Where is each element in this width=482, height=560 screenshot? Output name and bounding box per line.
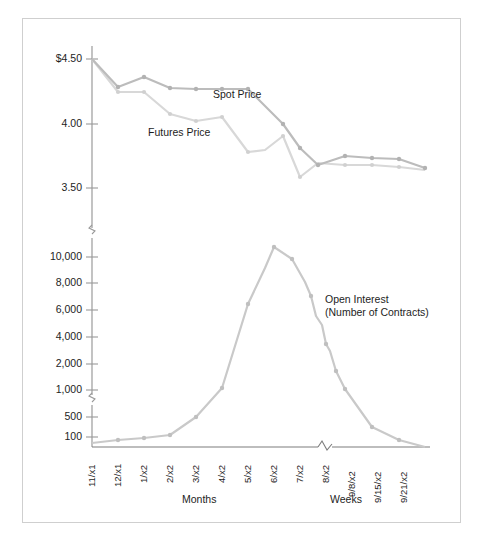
oi-ytick-label-4: 2,000	[20, 358, 82, 369]
price-y-axis	[86, 46, 98, 248]
oi-ytick-label-3: 4,000	[20, 331, 82, 342]
chart-root: $4.50 4.00 3.50 10,000 8,000 6,000 4,000…	[0, 0, 482, 560]
open-interest-series	[92, 245, 425, 447]
x-tick-label-12: 9/21/x2	[399, 472, 409, 503]
oi-ytick-label-5: 1,000	[20, 384, 82, 395]
x-tick-label-0: 11/x1	[87, 464, 97, 487]
x-tick-label-5: 4/x2	[217, 465, 227, 483]
spot-price-series	[92, 59, 427, 170]
futures-price-annotation: Futures Price	[148, 126, 210, 139]
x-tick-label-11: 9/15/x2	[373, 472, 383, 503]
price-ytick-label-0: $4.50	[28, 53, 82, 64]
spot-price-annotation: Spot Price	[213, 88, 261, 101]
x-tick-label-9: 8/x2	[321, 465, 331, 483]
price-ytick-label-1: 4.00	[28, 118, 82, 129]
x-tick-label-4: 3/x2	[191, 465, 201, 483]
oi-ytick-label-2: 6,000	[20, 304, 82, 315]
x-tick-label-7: 6/x2	[269, 465, 279, 483]
x-tick-label-6: 5/x2	[243, 465, 253, 483]
oi-ytick-label-0: 10,000	[20, 251, 82, 262]
price-ytick-label-2: 3.50	[28, 182, 82, 193]
oi-ytick-label-6: 500	[20, 411, 82, 422]
x-tick-label-1: 12/x1	[113, 464, 123, 487]
x-axis-group-label-months: Months	[182, 493, 216, 505]
x-axis-group-label-weeks: Weeks	[330, 493, 362, 505]
oi-ytick-label-7: 100	[20, 431, 82, 442]
x-axis	[92, 441, 430, 450]
x-tick-label-3: 2/x2	[165, 465, 175, 483]
open-interest-y-axis	[86, 248, 98, 447]
oi-ytick-label-1: 8,000	[20, 277, 82, 288]
x-tick-label-8: 7/x2	[295, 465, 305, 483]
open-interest-annotation-line2: (Number of Contracts)	[325, 306, 429, 319]
x-tick-label-2: 1/x2	[139, 465, 149, 483]
open-interest-annotation-line1: Open Interest	[325, 293, 389, 306]
